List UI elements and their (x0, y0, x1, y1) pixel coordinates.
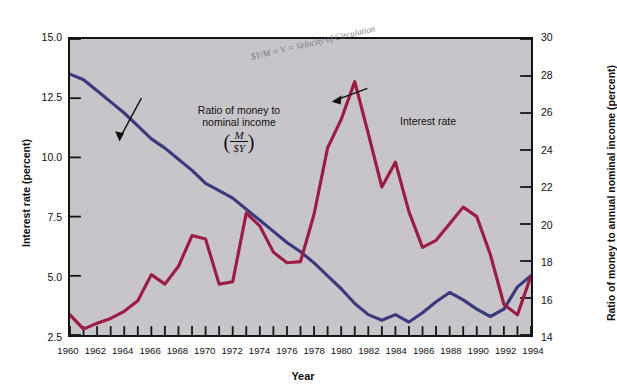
x-tick-1990: 1990 (468, 345, 489, 356)
y-tick-left-15.0: 15.0 (18, 31, 62, 43)
x-tick-1972: 1972 (221, 345, 242, 356)
y-tick-right-14: 14 (541, 331, 575, 343)
x-tick-1994: 1994 (522, 345, 543, 356)
y-tick-right-20: 20 (541, 219, 575, 231)
annotation-interest-rate: Interest rate (400, 115, 456, 127)
x-tick-1970: 1970 (194, 345, 215, 356)
x-tick-1974: 1974 (249, 345, 270, 356)
y-axis-title-right: Ratio of money to annual nominal income … (605, 28, 617, 358)
annotation-money-ratio: Ratio of money to nominal income (M$Y) (174, 104, 304, 154)
fraction-denominator: $Y (230, 141, 248, 154)
y-tick-left-5.0: 5.0 (18, 271, 62, 283)
annotation-money-formula: (M$Y) (174, 129, 304, 155)
y-tick-left-12.5: 12.5 (18, 91, 62, 103)
y-tick-right-22: 22 (541, 181, 575, 193)
annotation-money-line-2: nominal income (174, 116, 304, 128)
x-tick-1986: 1986 (413, 345, 434, 356)
x-tick-1992: 1992 (495, 345, 516, 356)
axis-tick-marks (70, 39, 531, 335)
y-tick-right-18: 18 (541, 256, 575, 268)
y-axis-title-left: Interest rate (percent) (20, 83, 32, 303)
annotation-arrow-money (115, 98, 141, 141)
x-tick-1968: 1968 (167, 345, 188, 356)
plot-svg (70, 39, 531, 335)
y-tick-right-16: 16 (541, 294, 575, 306)
y-tick-right-28: 28 (541, 69, 575, 81)
x-tick-1980: 1980 (331, 345, 352, 356)
x-tick-1962: 1962 (85, 345, 106, 356)
y-tick-left-2.5: 2.5 (18, 331, 62, 343)
fraction-numerator: M (230, 129, 248, 141)
annotation-money-line-1: Ratio of money to (174, 104, 304, 116)
x-tick-1982: 1982 (358, 345, 379, 356)
x-tick-1988: 1988 (440, 345, 461, 356)
x-tick-1960: 1960 (57, 345, 78, 356)
plot-area: Ratio of money to nominal income (M$Y) I… (68, 37, 533, 337)
x-tick-1978: 1978 (304, 345, 325, 356)
x-tick-1984: 1984 (386, 345, 407, 356)
x-tick-1964: 1964 (112, 345, 133, 356)
x-tick-1976: 1976 (276, 345, 297, 356)
paren-open: ( (224, 131, 231, 153)
y-tick-right-30: 30 (541, 31, 575, 43)
fraction-m-over-dollar-y: M$Y (230, 129, 248, 155)
y-tick-left-7.5: 7.5 (18, 211, 62, 223)
paren-close: ) (248, 131, 255, 153)
x-tick-1966: 1966 (139, 345, 160, 356)
y-tick-right-26: 26 (541, 106, 575, 118)
x-axis-title: Year (0, 370, 606, 382)
y-tick-right-24: 24 (541, 144, 575, 156)
y-tick-left-10.0: 10.0 (18, 151, 62, 163)
